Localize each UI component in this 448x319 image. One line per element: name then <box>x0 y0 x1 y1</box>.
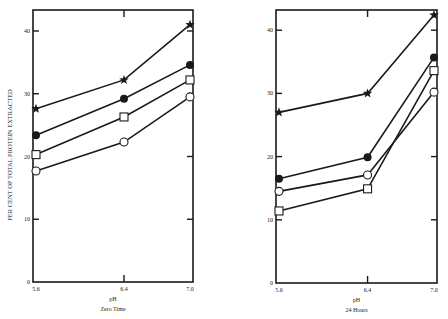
y-tick-label: 0 <box>27 279 30 285</box>
x-tick-label: 6.4 <box>120 286 128 292</box>
line-chart-pair: PER CENT OF TOTAL PROTEIN EXTRACTED 0102… <box>0 0 448 319</box>
open-circle-marker <box>32 167 40 175</box>
x-tick-label: 5.6 <box>275 287 283 293</box>
plot-frame <box>276 10 437 283</box>
y-tick-label: 40 <box>267 27 273 33</box>
y-tick-label: 0 <box>270 280 273 286</box>
open-circle-marker <box>364 171 372 179</box>
panel-title: Zero Time <box>100 306 126 312</box>
x-axis-label: pH <box>109 296 117 302</box>
open-circle-marker <box>186 93 194 101</box>
filled-circle-marker <box>120 95 128 103</box>
open-circle-marker <box>120 138 128 146</box>
filled-circle-marker <box>32 131 40 139</box>
series-open-circle <box>275 88 438 195</box>
filled-circle-marker <box>275 175 283 183</box>
filled-circle-marker <box>364 153 372 161</box>
open-square-marker <box>186 76 194 84</box>
series-star <box>274 10 439 116</box>
y-tick-label: 30 <box>267 90 273 96</box>
series-star <box>31 20 195 113</box>
y-axis-label: PER CENT OF TOTAL PROTEIN EXTRACTED <box>6 89 13 221</box>
x-tick-label: 7.0 <box>430 287 438 293</box>
x-tick-label: 5.6 <box>32 286 40 292</box>
y-tick-label: 10 <box>24 216 30 222</box>
open-square-marker <box>32 151 40 159</box>
open-square-marker <box>275 207 283 215</box>
panel-title: 24 Hours <box>345 307 368 313</box>
x-tick-label: 6.4 <box>364 287 372 293</box>
open-square-marker <box>364 185 372 193</box>
figure: PER CENT OF TOTAL PROTEIN EXTRACTED 0102… <box>0 0 448 319</box>
y-tick-label: 30 <box>24 91 30 97</box>
open-square-marker <box>430 67 438 75</box>
y-tick-label: 10 <box>267 217 273 223</box>
series-open-circle <box>32 93 194 175</box>
x-axis-label: pH <box>353 297 361 303</box>
filled-circle-marker <box>430 53 438 61</box>
y-tick-label: 40 <box>24 28 30 34</box>
x-tick-label: 7.0 <box>186 286 194 292</box>
chart-panel-24-hours: 0102030405.66.47.0pH24 Hours <box>267 10 439 313</box>
open-circle-marker <box>275 187 283 195</box>
chart-panel-zero-time: 0102030405.66.47.0pHZero Time <box>24 10 195 312</box>
y-tick-label: 20 <box>24 154 30 160</box>
open-circle-marker <box>430 88 438 96</box>
open-square-marker <box>120 113 128 121</box>
y-tick-label: 20 <box>267 154 273 160</box>
filled-circle-marker <box>186 61 194 69</box>
series-filled-circle <box>32 61 194 139</box>
